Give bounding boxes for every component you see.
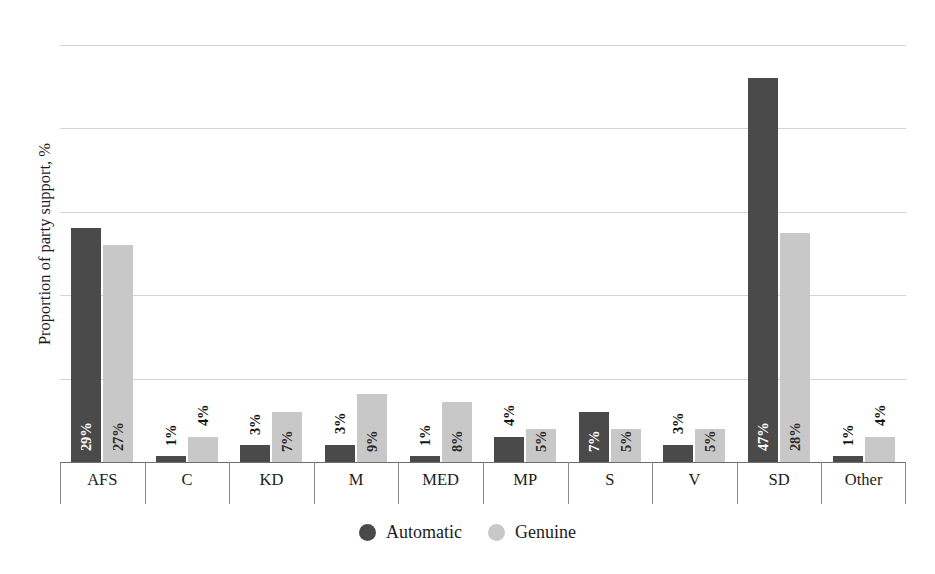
- category-label: MED: [422, 470, 459, 490]
- bar-group: 47%28%: [737, 45, 822, 462]
- bar-value-label: 1%: [840, 424, 855, 445]
- bar-wrapper: 4%: [494, 45, 524, 462]
- bar-value-label: 27%: [111, 422, 126, 450]
- plot-area: 50403020100 29%27%1%4%3%7%3%9%1%8%4%5%7%…: [60, 45, 906, 462]
- bar-value-label: 4%: [872, 405, 887, 426]
- category-label: V: [688, 470, 700, 490]
- bar-wrapper: 1%: [833, 45, 863, 462]
- legend-label: Automatic: [386, 522, 462, 543]
- bar-value-label: 47%: [756, 422, 771, 450]
- bar-wrapper: 5%: [695, 45, 725, 462]
- bar-wrapper: 29%: [71, 45, 101, 462]
- category-label: AFS: [87, 470, 117, 490]
- bar[interactable]: [748, 78, 778, 462]
- legend-item-genuine[interactable]: Genuine: [488, 522, 576, 543]
- bar-value-label: 7%: [587, 430, 602, 451]
- bar-value-label: 5%: [703, 430, 718, 451]
- bars: 1%8%: [398, 45, 483, 462]
- bar-value-label: 8%: [449, 430, 464, 451]
- bar-group: 3%9%: [314, 45, 399, 462]
- bar[interactable]: [188, 437, 218, 462]
- bar-group: 1%4%: [821, 45, 906, 462]
- category-cell-v: V: [652, 462, 737, 504]
- bar-wrapper: 3%: [325, 45, 355, 462]
- filled-circle-icon: [488, 524, 505, 541]
- bar-value-label: 4%: [502, 405, 517, 426]
- bar-wrapper: 1%: [410, 45, 440, 462]
- bar-value-label: 29%: [79, 422, 94, 450]
- bar-chart: Proportion of party support, % 504030201…: [0, 0, 935, 574]
- bars: 3%9%: [314, 45, 399, 462]
- category-label: SD: [769, 470, 790, 490]
- bar-wrapper: 4%: [865, 45, 895, 462]
- bars: 7%5%: [568, 45, 653, 462]
- bar-wrapper: 3%: [663, 45, 693, 462]
- bars: 3%7%: [229, 45, 314, 462]
- bar-wrapper: 27%: [103, 45, 133, 462]
- bar-wrapper: 28%: [780, 45, 810, 462]
- bar[interactable]: [240, 445, 270, 462]
- category-label: Other: [845, 470, 883, 490]
- legend-label: Genuine: [515, 522, 576, 543]
- category-cell-m: M: [314, 462, 399, 504]
- bar-value-label: 3%: [248, 413, 263, 434]
- bar-value-label: 7%: [280, 430, 295, 451]
- bar-wrapper: 8%: [442, 45, 472, 462]
- bar-wrapper: 3%: [240, 45, 270, 462]
- bar-value-label: 28%: [788, 422, 803, 450]
- bar-wrapper: 5%: [526, 45, 556, 462]
- bar-value-label: 1%: [417, 424, 432, 445]
- category-cell-other: Other: [821, 462, 906, 504]
- bar-value-label: 4%: [196, 405, 211, 426]
- bar[interactable]: [494, 437, 524, 462]
- bar-group: 3%5%: [652, 45, 737, 462]
- chart-legend: AutomaticGenuine: [0, 522, 935, 543]
- bars: 1%4%: [821, 45, 906, 462]
- legend-item-automatic[interactable]: Automatic: [359, 522, 462, 543]
- bar-group: 1%8%: [398, 45, 483, 462]
- bar-value-label: 3%: [333, 413, 348, 434]
- bar-group: 29%27%: [60, 45, 145, 462]
- category-label: MP: [513, 470, 537, 490]
- category-cell-sd: SD: [737, 462, 822, 504]
- category-axis: AFSCKDMMEDMPSVSDOther: [60, 462, 906, 504]
- category-cell-kd: KD: [229, 462, 314, 504]
- bar-value-label: 5%: [619, 430, 634, 451]
- bar-value-label: 9%: [365, 430, 380, 451]
- bar-group: 1%4%: [145, 45, 230, 462]
- caption-remnant: [0, 0, 935, 3]
- category-cell-s: S: [568, 462, 653, 504]
- bar-wrapper: 5%: [611, 45, 641, 462]
- category-label: M: [349, 470, 364, 490]
- filled-circle-icon: [359, 524, 376, 541]
- category-label: S: [605, 470, 614, 490]
- bars: 4%5%: [483, 45, 568, 462]
- bar-groups: 29%27%1%4%3%7%3%9%1%8%4%5%7%5%3%5%47%28%…: [60, 45, 906, 462]
- category-cell-c: C: [145, 462, 230, 504]
- bar-value-label: 3%: [671, 413, 686, 434]
- bar-wrapper: 7%: [579, 45, 609, 462]
- category-label: KD: [260, 470, 284, 490]
- bar[interactable]: [663, 445, 693, 463]
- bar-wrapper: 1%: [156, 45, 186, 462]
- bar[interactable]: [325, 445, 355, 463]
- bar-wrapper: 7%: [272, 45, 302, 462]
- bars: 47%28%: [737, 45, 822, 462]
- bar-wrapper: 4%: [188, 45, 218, 462]
- bars: 29%27%: [60, 45, 145, 462]
- category-label: C: [181, 470, 192, 490]
- bars: 1%4%: [145, 45, 230, 462]
- bar-wrapper: 9%: [357, 45, 387, 462]
- bar[interactable]: [865, 437, 895, 462]
- bar-value-label: 1%: [164, 424, 179, 445]
- category-cell-med: MED: [398, 462, 483, 504]
- bar-group: 7%5%: [568, 45, 653, 462]
- category-cells: AFSCKDMMEDMPSVSDOther: [60, 462, 906, 504]
- bar-value-label: 5%: [534, 430, 549, 451]
- bar-group: 3%7%: [229, 45, 314, 462]
- bars: 3%5%: [652, 45, 737, 462]
- bar-group: 4%5%: [483, 45, 568, 462]
- category-cell-mp: MP: [483, 462, 568, 504]
- category-cell-afs: AFS: [60, 462, 145, 504]
- bar-wrapper: 47%: [748, 45, 778, 462]
